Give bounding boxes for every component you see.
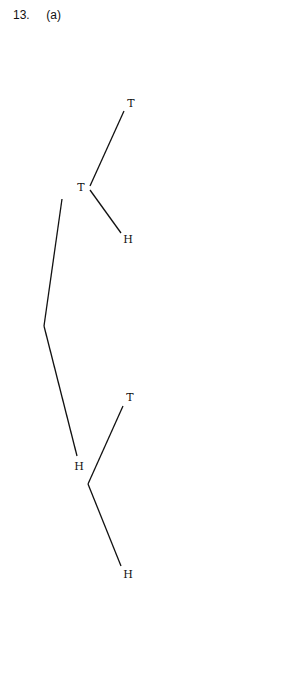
branch-H-T [88,406,123,484]
node-H: H [74,460,84,473]
tree-edges [44,111,124,566]
probability-tree-diagram: THTHTH [0,0,294,679]
branch-T-T [90,111,124,186]
node-TT: T [127,97,135,110]
node-HH: H [123,568,133,581]
branch-root-H [44,326,77,456]
node-HT: T [126,391,134,404]
node-T: T [77,181,85,194]
branch-root-T [44,199,62,326]
branch-H-H [88,484,121,566]
tree-labels: THTHTH [74,97,135,581]
node-TH: H [123,233,133,246]
branch-T-H [90,190,121,233]
